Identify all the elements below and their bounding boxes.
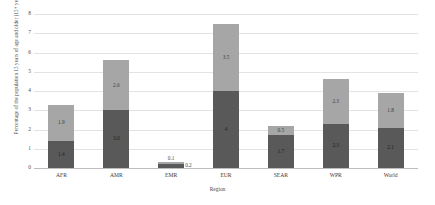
bar-segment-upper: 1.8 xyxy=(378,93,404,128)
bar-value-label: 2.3 xyxy=(332,99,339,104)
bar-segment-lower: 4 xyxy=(213,91,239,168)
y-axis-tick-label: 3 xyxy=(28,108,31,113)
bar-group: 0.10.2 xyxy=(158,162,184,168)
bar-group: 2.32.3 xyxy=(323,79,349,168)
bar-value-label: 0.2 xyxy=(185,163,192,168)
bar-value-label: 0.1 xyxy=(168,156,175,161)
bar-segment-lower: 2.3 xyxy=(323,124,349,168)
bar-value-label: 1.4 xyxy=(58,152,65,157)
bar-group: 2.63.0 xyxy=(103,60,129,168)
bar-segment-upper: 2.3 xyxy=(323,79,349,123)
x-axis-tick-label: SEAR xyxy=(274,172,288,178)
x-axis-tick-label: AMR xyxy=(110,172,123,178)
bar-value-label: 3.5 xyxy=(223,55,230,60)
bar-series: 1.91.42.63.00.10.23.540.51.72.32.31.82.1 xyxy=(34,14,418,168)
bar-group: 0.51.7 xyxy=(268,126,294,168)
bar-group: 1.82.1 xyxy=(378,93,404,168)
bar-segment-upper: 2.6 xyxy=(103,60,129,110)
bar-segment-lower: 1.4 xyxy=(48,141,74,168)
x-axis-tick-label: World xyxy=(384,172,398,178)
bar-group: 3.54 xyxy=(213,24,239,168)
bar-value-label: 2.6 xyxy=(113,83,120,88)
y-axis-tick-label: 4 xyxy=(28,88,31,93)
y-axis-tick-label: 1 xyxy=(28,146,31,151)
y-axis-tick-label: 7 xyxy=(28,31,31,36)
y-axis-tick-label: 0 xyxy=(28,165,31,170)
bar-value-label: 2.1 xyxy=(387,145,394,150)
bar-value-label: 1.8 xyxy=(387,108,394,113)
x-axis-tick-label: WPR xyxy=(330,172,342,178)
bar-value-label: 2.3 xyxy=(332,143,339,148)
stacked-bar-chart: Percentage of the population 15 years of… xyxy=(0,0,435,205)
plot-area: 012345678 1.91.42.63.00.10.23.540.51.72.… xyxy=(34,14,418,168)
x-axis-tick-label: EMR xyxy=(165,172,177,178)
bar-segment-upper: 0.5 xyxy=(268,126,294,136)
bar-value-label: 1.9 xyxy=(58,120,65,125)
bar-segment-upper: 3.5 xyxy=(213,24,239,91)
bar-segment-lower: 2.1 xyxy=(378,128,404,168)
bar-segment-lower: 3.0 xyxy=(103,110,129,168)
bar-segment-lower: 1.7 xyxy=(268,135,294,168)
y-axis-tick-label: 2 xyxy=(28,127,31,132)
y-axis-title: Percentage of the population 15 years of… xyxy=(13,0,19,143)
bar-segment-upper: 1.9 xyxy=(48,105,74,142)
gridline xyxy=(34,168,418,169)
bar-value-label: 4 xyxy=(225,127,228,132)
y-axis-tick-label: 8 xyxy=(28,11,31,16)
y-axis-tick-label: 5 xyxy=(28,69,31,74)
bar-segment-lower: 0.2 xyxy=(158,164,184,168)
x-axis-title: Region xyxy=(0,186,435,192)
x-axis-tick-label: EUR xyxy=(220,172,231,178)
bar-value-label: 1.7 xyxy=(278,149,285,154)
bar-group: 1.91.4 xyxy=(48,105,74,169)
bar-value-label: 0.5 xyxy=(278,128,285,133)
x-axis-tick-label: AFR xyxy=(56,172,67,178)
y-axis-tick-label: 6 xyxy=(28,50,31,55)
bar-value-label: 3.0 xyxy=(113,136,120,141)
